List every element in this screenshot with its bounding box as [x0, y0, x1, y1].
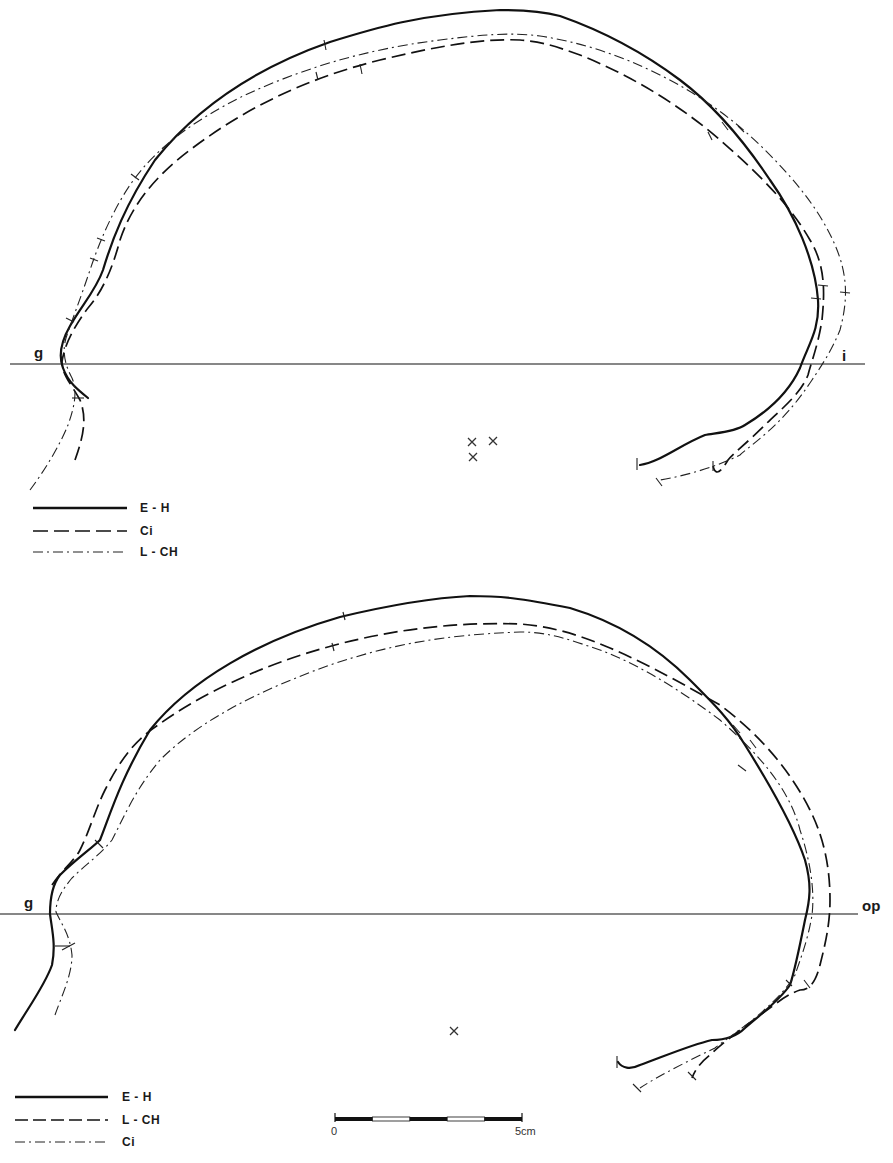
top-baseline-right-label: i	[842, 348, 846, 363]
top-end-tick-lch	[656, 478, 662, 486]
cross-mark-icon	[489, 437, 497, 445]
cross-mark-icon	[468, 438, 476, 446]
craniogram-diagram	[0, 0, 893, 1163]
bottom-outline-lch	[52, 624, 830, 1078]
top-legend-item-solid: E - H	[0, 502, 220, 516]
top-baseline-left-label: g	[34, 345, 43, 360]
top-legend-item-dashdot: L - CH	[0, 546, 220, 560]
top-legend-item-dashed: Ci	[0, 525, 220, 539]
bottom-legend-label: L - CH	[122, 1113, 160, 1127]
top-figure	[10, 10, 865, 552]
scale-end-label: 5cm	[515, 1125, 536, 1137]
bottom-end-tick-ci	[633, 1084, 641, 1092]
cross-mark-icon	[469, 453, 477, 461]
bottom-outline-eh	[15, 596, 810, 1068]
bottom-legend-item-dashed: L - CH	[0, 1114, 202, 1128]
top-center-marks	[468, 437, 497, 461]
bottom-baseline-right-label: op	[862, 898, 880, 913]
scale-bar	[335, 1113, 522, 1122]
bottom-legend-label: E - H	[122, 1090, 152, 1104]
bottom-baseline-left-label: g	[24, 895, 33, 910]
top-outline-lch	[30, 34, 845, 490]
scale-start-label: 0	[331, 1125, 337, 1137]
top-outline-eh	[61, 10, 818, 465]
bottom-legend-item-solid: E - H	[0, 1091, 202, 1105]
bottom-legend-item-dashdot: Ci	[0, 1136, 202, 1150]
top-legend-label: L - CH	[140, 545, 178, 559]
bottom-outline-ci	[55, 632, 813, 1088]
cross-mark-icon	[450, 1027, 458, 1035]
bottom-legend-label: Ci	[122, 1135, 135, 1149]
top-cross-ticks	[66, 40, 850, 398]
top-legend-label: E - H	[140, 501, 170, 515]
top-legend-label: Ci	[140, 524, 153, 538]
bottom-cross-ticks	[55, 612, 810, 988]
bottom-figure	[0, 596, 858, 1142]
